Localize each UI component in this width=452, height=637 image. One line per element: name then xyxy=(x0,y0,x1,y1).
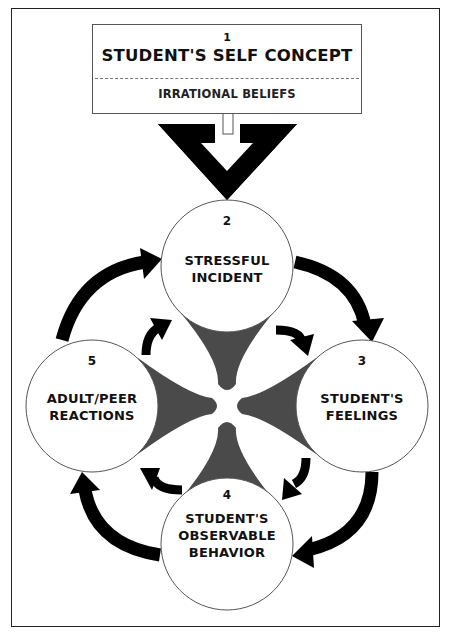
node-label-line: STUDENT'S xyxy=(296,390,428,407)
step-number-2: 2 xyxy=(161,214,293,228)
irrational-beliefs-label: IRRATIONAL BELIEFS xyxy=(93,87,361,101)
node-label: STUDENT'S OBSERVABLE BEHAVIOR xyxy=(161,510,293,561)
node-label-line: STUDENT'S xyxy=(161,510,293,527)
node-label: STUDENT'S FEELINGS xyxy=(296,390,428,424)
node-adult-peer-reactions: 5 ADULT/PEER REACTIONS xyxy=(26,340,158,472)
node-label-line: STRESSFUL xyxy=(161,252,293,269)
node-label-line: INCIDENT xyxy=(161,269,293,286)
node-observable-behavior: 4 STUDENT'S OBSERVABLE BEHAVIOR xyxy=(161,478,293,610)
step-number-1: 1 xyxy=(93,31,361,44)
node-label-line: FEELINGS xyxy=(296,407,428,424)
arrowhead-2-to-3-icon xyxy=(352,318,384,342)
step-number-5: 5 xyxy=(26,354,158,368)
self-concept-box: 1 STUDENT'S SELF CONCEPT IRRATIONAL BELI… xyxy=(92,24,362,114)
self-concept-title: STUDENT'S SELF CONCEPT xyxy=(93,46,361,65)
node-label-line: ADULT/PEER xyxy=(26,390,158,407)
dash-divider xyxy=(95,78,359,79)
node-students-feelings: 3 STUDENT'S FEELINGS xyxy=(296,340,428,472)
node-label: ADULT/PEER REACTIONS xyxy=(26,390,158,424)
down-arrow-icon xyxy=(158,112,297,200)
node-label-line: REACTIONS xyxy=(26,407,158,424)
step-number-4: 4 xyxy=(161,488,293,502)
arrowhead-4-to-5-icon xyxy=(70,472,100,494)
node-label: STRESSFUL INCIDENT xyxy=(161,252,293,286)
node-stressful-incident: 2 STRESSFUL INCIDENT xyxy=(161,200,293,332)
arrowhead-3-to-4-icon xyxy=(292,536,314,568)
node-label-line: OBSERVABLE xyxy=(161,527,293,544)
node-label-line: BEHAVIOR xyxy=(161,544,293,561)
step-number-3: 3 xyxy=(296,354,428,368)
center-star-shape xyxy=(138,312,316,500)
arrowhead-5-to-2-icon xyxy=(140,248,162,279)
